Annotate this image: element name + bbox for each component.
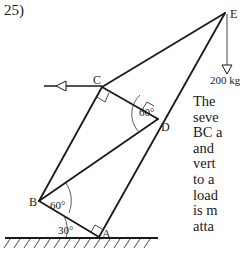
label-B: B (29, 195, 37, 209)
angle-label-B-lower: 30° (58, 224, 73, 236)
member-BD (39, 119, 158, 201)
description-line: is m (193, 203, 240, 219)
description-line: vert (193, 156, 240, 172)
description-line: BC a (193, 125, 240, 141)
description-line: to a (193, 172, 240, 188)
angle-arcs (64, 95, 140, 238)
load-arrow-E (222, 14, 232, 74)
angle-label-D: 60° (139, 106, 154, 118)
label-E: E (230, 7, 237, 21)
ground (4, 238, 158, 248)
label-C: C (93, 73, 101, 87)
member-BC (39, 87, 102, 201)
member-CE (102, 13, 225, 87)
description-line: load (193, 188, 240, 204)
angle-label-B-upper: 60° (50, 199, 65, 211)
label-A: A (102, 227, 111, 241)
label-D: D (161, 120, 170, 134)
load-label: 200 kg (210, 74, 240, 86)
description-line: The (193, 94, 240, 110)
description-line: atta (193, 219, 240, 235)
description-line: seve (193, 110, 240, 126)
description-line: and (193, 141, 240, 157)
problem-description: The seve BC a and vert to a load is m at… (193, 94, 240, 234)
